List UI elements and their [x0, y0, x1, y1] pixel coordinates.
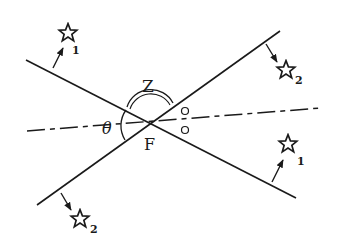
- dash-dot-axis: [27, 108, 321, 131]
- small-circle-upper: [182, 108, 189, 115]
- star-one-lower-subscript: 1: [297, 155, 305, 168]
- star-two-upper-subscript: 2: [295, 74, 303, 87]
- arrow-star-two-lower: [61, 193, 71, 210]
- theta-label: θ: [102, 119, 112, 138]
- star-one-upper-icon: [59, 24, 77, 41]
- small-circle-lower: [182, 127, 189, 134]
- star-one-upper-subscript: 1: [72, 44, 80, 57]
- arrow-star-one-lower: [272, 160, 283, 182]
- line-two: [37, 31, 280, 205]
- zenith-arc-inner: [130, 94, 170, 109]
- focus-star-diagram: Z F θ 1 2 1 2: [0, 0, 338, 244]
- arrow-star-one-upper: [53, 48, 63, 68]
- line-one: [26, 60, 296, 198]
- star-two-upper-icon: [277, 61, 295, 78]
- theta-arc: [121, 110, 126, 140]
- star-one-lower-icon: [279, 135, 297, 152]
- focus-label: F: [144, 135, 155, 154]
- arrow-star-two-upper: [266, 44, 277, 62]
- star-two-lower-icon: [71, 210, 89, 227]
- zenith-label: Z: [142, 76, 154, 96]
- star-two-lower-subscript: 2: [90, 223, 98, 236]
